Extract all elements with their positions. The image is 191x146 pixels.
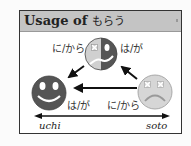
axis-label-soto: soto — [146, 120, 167, 131]
left-happy-face-icon — [32, 76, 66, 110]
right-sad-face-icon — [138, 75, 172, 109]
label-bottom-left-particle: は/が — [67, 97, 90, 112]
top-face-icon — [85, 38, 117, 70]
label-bottom-right-particle: に/から — [107, 97, 140, 112]
axis-label-uchi: uchi — [39, 120, 61, 131]
arrow-right-to-top — [122, 67, 137, 79]
arrow-top-to-left — [69, 66, 84, 77]
uchi-soto-axis — [34, 113, 170, 119]
label-top-left-particle: に/から — [52, 40, 85, 55]
label-top-right-particle: は/が — [120, 40, 143, 55]
